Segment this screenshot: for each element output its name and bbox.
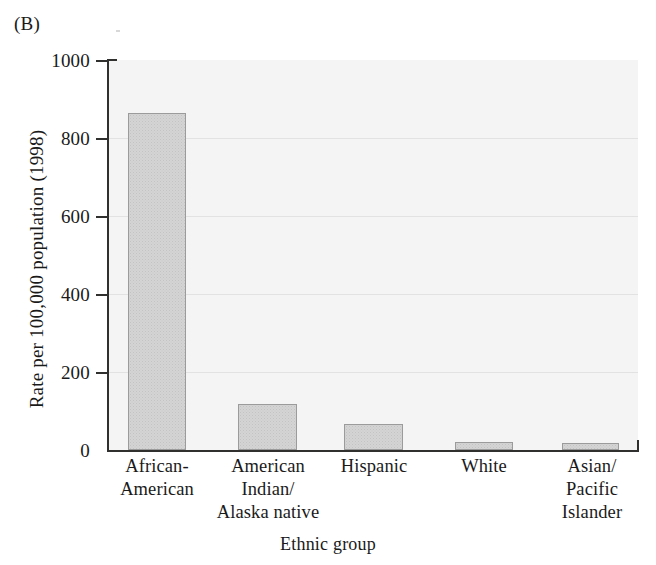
x-axis-right-cap xyxy=(637,440,639,452)
x-tick-label-american-indian-alaska-native: American Indian/ Alaska native xyxy=(205,455,331,524)
bar-american-indian-alaska-native xyxy=(238,404,297,450)
bar-white xyxy=(455,442,513,450)
y-tick-1000 xyxy=(96,60,108,62)
gridline-200 xyxy=(108,372,638,373)
y-tick-600 xyxy=(96,216,108,218)
y-tick-400 xyxy=(96,294,108,296)
y-axis-line xyxy=(107,59,109,452)
x-tick-line: Islander xyxy=(536,501,648,524)
bar-asian-pacific-islander xyxy=(562,443,619,450)
x-tick-line: Pacific xyxy=(536,478,648,501)
y-tick-200 xyxy=(96,372,108,374)
x-axis-title: Ethnic group xyxy=(0,534,656,555)
x-tick-label-hispanic: Hispanic xyxy=(318,455,430,478)
y-tick-labels: 1000 800 600 400 200 0 xyxy=(8,0,90,565)
x-tick-label-african-american: African- American xyxy=(97,455,217,501)
x-tick-label-white: White xyxy=(432,455,536,478)
gridline-800 xyxy=(108,138,638,139)
y-axis-top-cap xyxy=(107,59,117,61)
x-tick-line: Asian/ xyxy=(536,455,648,478)
y-tick-label-600: 600 xyxy=(12,207,90,226)
x-tick-line: African- xyxy=(97,455,217,478)
bar-african-american xyxy=(128,113,186,450)
y-tick-label-0: 0 xyxy=(12,441,90,460)
x-tick-line: American xyxy=(97,478,217,501)
x-tick-line: Indian/ xyxy=(205,478,331,501)
x-tick-line: Hispanic xyxy=(318,455,430,478)
y-tick-label-400: 400 xyxy=(12,285,90,304)
y-tick-label-200: 200 xyxy=(12,363,90,382)
x-tick-line: American xyxy=(205,455,331,478)
x-tick-label-asian-pacific-islander: Asian/ Pacific Islander xyxy=(536,455,648,524)
y-tick-label-1000: 1000 xyxy=(12,51,90,70)
gridline-600 xyxy=(108,216,638,217)
y-tick-800 xyxy=(96,138,108,140)
bar-hispanic xyxy=(344,424,403,450)
x-tick-line: Alaska native xyxy=(205,501,331,524)
scan-artifact-mark xyxy=(116,30,120,32)
x-axis-line xyxy=(107,450,639,452)
x-tick-line: White xyxy=(432,455,536,478)
y-tick-label-800: 800 xyxy=(12,129,90,148)
gridline-400 xyxy=(108,294,638,295)
plot-area xyxy=(108,60,638,450)
